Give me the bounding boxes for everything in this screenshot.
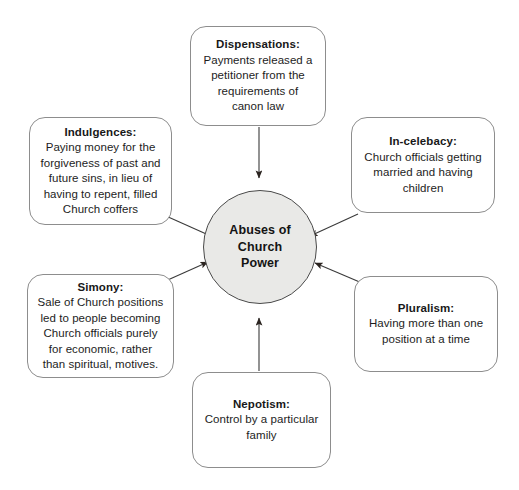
node-nepotism-title: Nepotism: xyxy=(233,397,290,413)
diagram-canvas: Abuses of Church Power Dispensations: Pa… xyxy=(0,0,519,490)
center-node-label: Abuses of Church Power xyxy=(229,222,290,272)
node-simony-body: Sale of Church positions led to people b… xyxy=(38,295,164,373)
connector-pluralism xyxy=(315,263,362,283)
node-pluralism-body: Having more than one position at a time xyxy=(369,316,483,347)
node-incelebacy: In-celebacy: Church officials getting ma… xyxy=(351,117,495,213)
node-pluralism-title: Pluralism: xyxy=(398,301,455,317)
node-nepotism: Nepotism: Control by a particular family xyxy=(192,372,331,468)
node-indulgences-title: Indulgences: xyxy=(64,125,136,141)
node-indulgences-body: Paying money for the forgiveness of past… xyxy=(40,140,160,218)
node-dispensations: Dispensations: Payments released a petit… xyxy=(190,26,326,126)
node-incelebacy-title: In-celebacy: xyxy=(389,134,457,150)
node-incelebacy-body: Church officials getting married and hav… xyxy=(364,150,481,197)
node-indulgences: Indulgences: Paying money for the forgiv… xyxy=(29,117,172,225)
node-nepotism-body: Control by a particular family xyxy=(205,412,319,443)
node-dispensations-title: Dispensations: xyxy=(216,37,300,53)
node-simony: Simony: Sale of Church positions led to … xyxy=(27,274,174,378)
node-pluralism: Pluralism: Having more than one position… xyxy=(354,276,498,372)
center-node-abuses-of-church-power: Abuses of Church Power xyxy=(203,190,317,304)
node-simony-title: Simony: xyxy=(77,280,123,296)
connector-incelebacy xyxy=(310,214,358,236)
node-dispensations-body: Payments released a petitioner from the … xyxy=(204,53,313,115)
